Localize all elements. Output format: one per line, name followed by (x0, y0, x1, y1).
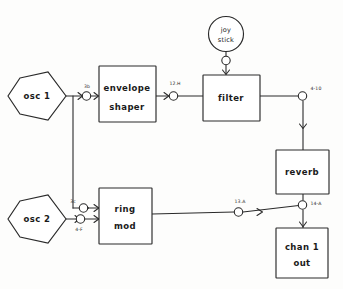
patch-point-4-10-label: 4-10 (311, 86, 322, 91)
patch-point-3b-label: 3b (84, 84, 90, 89)
module-envelope-shaper-label-line1: envelope (104, 83, 151, 93)
patch-point-13a-label: 13.A (235, 199, 247, 204)
module-ring-mod-label-line1: ring (115, 204, 136, 214)
module-filter-label: filter (218, 93, 244, 103)
patch-point-12h[interactable] (169, 92, 177, 100)
module-joystick[interactable] (209, 17, 244, 52)
module-chan1-out-label-line2: out (293, 258, 310, 268)
patch-point-4-f-label: 4-F (75, 227, 83, 232)
synth-patch-diagram: osc 1 osc 2 envelope shaper ring mod fil… (0, 0, 343, 289)
module-chan1-out-label-line1: chan 1 (285, 242, 319, 252)
module-osc1-label: osc 1 (24, 91, 51, 101)
module-osc2-label: osc 2 (24, 214, 51, 224)
patch-point-14a-label: 14-A (311, 201, 323, 206)
patch-point-joystick[interactable] (222, 56, 230, 64)
patch-point-3c-label: 3c (70, 199, 76, 204)
module-reverb-label: reverb (285, 167, 319, 177)
module-envelope-shaper-label-line2: shaper (109, 102, 145, 112)
patch-point-13a[interactable] (234, 208, 242, 216)
patch-point-3c[interactable] (79, 204, 87, 212)
patch-point-14a[interactable] (298, 201, 306, 209)
module-joystick-label-line1: joy (220, 26, 231, 34)
patch-point-4-10[interactable] (298, 92, 306, 100)
module-envelope-shaper[interactable] (99, 66, 156, 122)
patch-point-3b[interactable] (82, 92, 90, 100)
wire-ringmod-to-13a (152, 212, 234, 214)
module-joystick-label-line2: stick (218, 36, 234, 44)
patch-point-12h-label: 12.H (169, 81, 180, 86)
module-ring-mod-label-line2: mod (114, 221, 136, 231)
module-ring-mod[interactable] (99, 188, 152, 244)
patch-point-4-f[interactable] (76, 215, 84, 223)
module-chan1-out[interactable] (276, 228, 328, 278)
diagram-canvas: osc 1 osc 2 envelope shaper ring mod fil… (0, 0, 343, 289)
wire-13a-to-chan1 (243, 205, 303, 212)
